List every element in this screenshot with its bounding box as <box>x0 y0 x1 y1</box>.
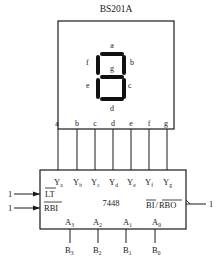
input-a0: A0 <box>152 217 161 228</box>
rbi-input-value: 1 <box>8 203 12 213</box>
input-a2: A2 <box>93 217 102 228</box>
segment-g <box>100 75 124 79</box>
segment-c <box>122 78 126 99</box>
input-b2: B2 <box>93 245 102 256</box>
segment-e <box>96 78 100 99</box>
segment-label-b: b <box>130 58 134 67</box>
bi-rbo-value: 1 <box>209 199 213 209</box>
output-ya: Ya <box>54 177 63 188</box>
segment-a <box>100 52 124 56</box>
rbi-arrow-icon <box>33 206 40 211</box>
input-wires <box>70 229 155 243</box>
output-yb: Yb <box>73 177 82 188</box>
input-b1: B1 <box>123 245 132 256</box>
segment-label-a: a <box>110 41 114 50</box>
rbi-label: RBI <box>44 203 58 213</box>
pin-label-c: c <box>93 119 97 128</box>
lt-arrow-icon <box>33 192 40 197</box>
segment-label-d: d <box>110 104 114 113</box>
pin-label-b: b <box>75 119 79 128</box>
pin-label-a: a <box>55 119 59 128</box>
output-yg: Yg <box>163 177 172 188</box>
output-yd: Yd <box>109 177 118 188</box>
output-yc: Yc <box>91 177 100 188</box>
bi-rbo-bubble-icon <box>186 200 190 204</box>
segment-label-e: e <box>86 81 90 90</box>
chip-name: 7448 <box>103 198 120 208</box>
segment-d <box>100 97 124 101</box>
segment-b <box>122 55 126 75</box>
input-a3: A3 <box>65 217 74 228</box>
segment-label-f: f <box>86 58 89 67</box>
input-b3: B3 <box>65 245 74 256</box>
segment-wires <box>58 129 167 170</box>
pin-label-d: d <box>111 119 115 128</box>
input-a1: A1 <box>123 217 132 228</box>
segment-f <box>96 55 100 75</box>
pin-label-f: f <box>148 119 151 128</box>
pin-label-g: g <box>164 119 168 128</box>
input-b0: B0 <box>152 245 161 256</box>
display-title: BS201A <box>100 4 133 14</box>
output-ye: Ye <box>127 177 136 188</box>
pin-label-e: e <box>129 119 133 128</box>
circuit-diagram: BS201A a b c d e f g a b c d e f g Ya Yb <box>0 0 221 264</box>
seven-segment-digit <box>96 52 126 101</box>
bi-rbo-label: BI/RBO <box>146 200 176 210</box>
segment-label-c: c <box>128 81 132 90</box>
lt-input-value: 1 <box>8 189 12 199</box>
lt-label: LT <box>45 189 55 199</box>
output-yf: Yf <box>145 177 153 188</box>
segment-label-g: g <box>110 64 114 73</box>
